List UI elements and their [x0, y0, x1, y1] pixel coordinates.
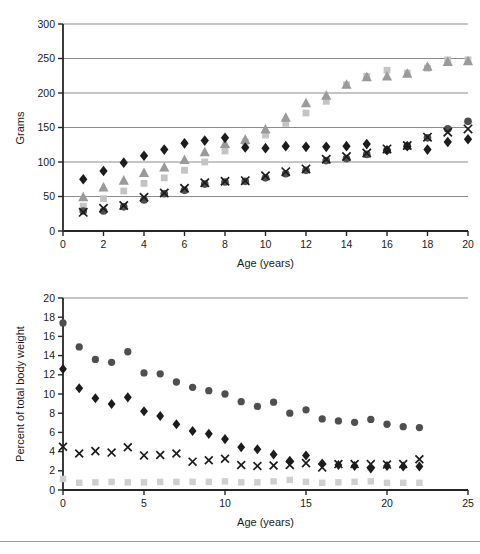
data-point: [464, 134, 472, 145]
data-point: [200, 147, 210, 157]
data-point: [157, 370, 164, 377]
y-tick-label: 16: [43, 330, 55, 342]
data-point: [322, 157, 330, 165]
data-point: [201, 159, 208, 166]
series-grey-triangle: [78, 56, 473, 201]
data-point: [342, 141, 350, 152]
data-point: [464, 125, 472, 133]
data-point: [281, 112, 291, 122]
data-point: [140, 150, 148, 161]
x-tick-label: 18: [422, 238, 434, 250]
data-point: [260, 124, 270, 134]
data-point: [422, 61, 432, 71]
x-tick-label: 25: [462, 497, 474, 509]
x-tick-label: 16: [381, 238, 393, 250]
data-point: [140, 452, 148, 460]
series-lightgrey-square: [80, 56, 472, 209]
x-tick-label: 6: [182, 238, 188, 250]
data-point: [59, 319, 66, 326]
data-point: [367, 416, 374, 423]
data-point: [221, 133, 229, 144]
y-tick-label: 250: [37, 52, 55, 64]
data-point: [157, 479, 163, 485]
data-point: [270, 478, 276, 484]
series-black-diamond: [79, 133, 472, 185]
data-point: [368, 478, 374, 484]
data-point: [341, 79, 351, 89]
data-point: [464, 117, 472, 125]
data-point: [75, 383, 83, 393]
data-point: [91, 447, 99, 455]
x-tick-label: 20: [462, 238, 474, 250]
data-point: [301, 98, 311, 108]
x-tick-label: 4: [141, 238, 147, 250]
data-point: [156, 411, 164, 421]
series-black-x: [79, 125, 472, 217]
series-dark-circle: [59, 319, 423, 431]
data-point: [303, 110, 310, 117]
data-point: [124, 348, 131, 355]
data-point: [399, 461, 407, 471]
data-point: [100, 195, 107, 202]
data-point: [205, 456, 213, 464]
data-point: [287, 477, 293, 483]
data-point: [443, 56, 453, 66]
data-point: [172, 419, 180, 429]
data-point: [141, 180, 148, 187]
data-point: [302, 166, 310, 174]
data-point: [261, 143, 269, 154]
data-point: [351, 419, 358, 426]
data-point: [282, 141, 290, 152]
gridlines: [63, 24, 468, 197]
data-point: [463, 56, 473, 66]
data-point: [400, 480, 406, 486]
data-point: [140, 406, 148, 416]
data-point: [319, 480, 325, 486]
x-tick-label: 14: [341, 238, 353, 250]
y-tick-label: 50: [43, 190, 55, 202]
y-tick-label: 8: [49, 407, 55, 419]
data-point: [75, 450, 83, 458]
data-point: [189, 479, 195, 485]
data-point: [335, 479, 341, 485]
top-chart-canvas: 05010015020025030002468101214161820: [0, 0, 480, 275]
y-tick-label: 6: [49, 426, 55, 438]
data-point: [79, 174, 87, 185]
data-point: [201, 135, 209, 146]
data-point: [120, 188, 127, 195]
bottom-y-axis-label: Percent of total body weight: [14, 326, 26, 462]
data-point: [444, 137, 452, 148]
data-point: [172, 450, 180, 458]
data-point: [221, 434, 229, 444]
data-point: [302, 450, 310, 460]
data-point: [303, 479, 309, 485]
data-point: [161, 174, 168, 181]
y-tick-label: 150: [37, 121, 55, 133]
bottom-chart-canvas: 024681012141618200510152025: [0, 278, 480, 538]
data-point: [383, 421, 390, 428]
data-point: [286, 410, 293, 417]
y-tick-label: 10: [43, 388, 55, 400]
y-tick-label: 12: [43, 368, 55, 380]
figure-container: 05010015020025030002468101214161820 Gram…: [0, 0, 480, 554]
data-point: [120, 203, 128, 211]
y-axis-ticks: 050100150200250300: [37, 18, 63, 237]
data-point: [76, 480, 82, 486]
data-point: [318, 459, 326, 469]
data-point: [108, 359, 115, 366]
data-point: [108, 399, 116, 409]
data-point: [140, 369, 147, 376]
series-palegrey-square: [60, 476, 423, 486]
x-tick-label: 0: [60, 238, 66, 250]
data-point: [119, 175, 129, 185]
y-tick-label: 2: [49, 464, 55, 476]
data-point: [108, 449, 116, 457]
data-point: [382, 71, 392, 81]
y-tick-label: 100: [37, 156, 55, 168]
y-tick-label: 300: [37, 18, 55, 30]
y-tick-label: 0: [49, 225, 55, 237]
x-tick-label: 10: [260, 238, 272, 250]
data-point: [254, 403, 261, 410]
data-point: [402, 68, 412, 78]
data-point: [416, 480, 422, 486]
